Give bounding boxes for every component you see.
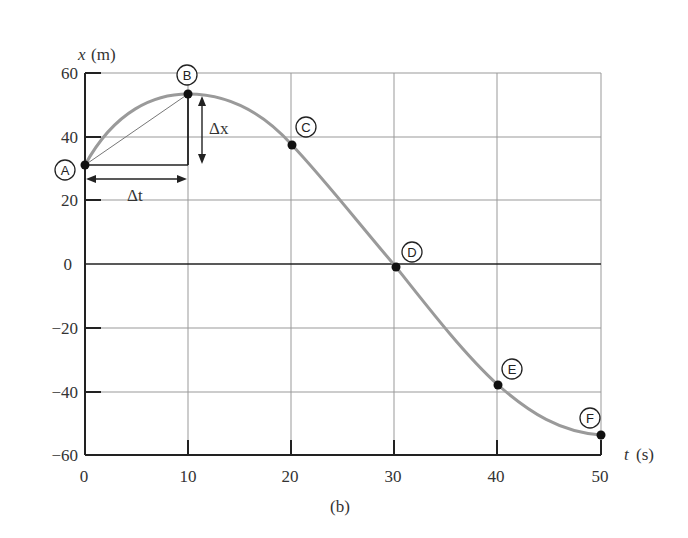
x-tick: 10 <box>180 467 197 486</box>
label-e: E <box>508 362 517 377</box>
secant-line <box>85 94 188 165</box>
label-a: A <box>61 163 70 178</box>
x-axis-label: t (s) <box>624 445 654 464</box>
point-b <box>184 90 193 99</box>
svg-text:(s): (s) <box>636 445 654 464</box>
y-tick: 0 <box>64 255 73 274</box>
y-tick-labels: 60 40 20 0 −20 −40 −60 <box>51 64 78 465</box>
y-tick: −20 <box>51 319 78 338</box>
y-tick: 60 <box>61 64 78 83</box>
x-tick: 20 <box>282 467 299 486</box>
label-f: F <box>586 411 594 426</box>
delta-t-label: Δt <box>127 186 143 205</box>
x-tick: 0 <box>80 467 89 486</box>
x-tick: 30 <box>385 467 402 486</box>
x-tick: 50 <box>592 467 609 486</box>
x-tick: 40 <box>488 467 505 486</box>
label-d: D <box>407 245 416 260</box>
axes <box>85 73 601 455</box>
point-e <box>494 381 503 390</box>
y-tick: 40 <box>61 128 78 147</box>
point-d <box>392 263 401 272</box>
y-tick: −40 <box>51 383 78 402</box>
delta-x-label: Δx <box>209 119 229 138</box>
figure-caption: (b) <box>330 497 350 516</box>
point-c <box>288 141 297 150</box>
y-tick: −60 <box>51 446 78 465</box>
x-tick-labels: 0 10 20 30 40 50 <box>80 467 609 486</box>
label-b: B <box>183 68 192 83</box>
y-axis-label: x (m) <box>77 45 116 64</box>
svg-text:x: x <box>77 45 86 64</box>
point-a <box>81 161 90 170</box>
label-c: C <box>301 120 310 135</box>
svg-text:t: t <box>624 445 630 464</box>
point-labels <box>55 65 600 428</box>
point-f <box>597 431 606 440</box>
y-tick: 20 <box>61 191 78 210</box>
svg-text:(m): (m) <box>91 45 116 64</box>
chart-svg: 60 40 20 0 −20 −40 −60 0 10 20 30 40 50 … <box>0 0 688 538</box>
